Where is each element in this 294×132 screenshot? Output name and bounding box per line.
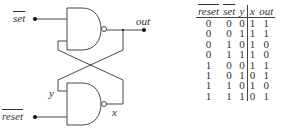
table-row: 1 1 1 0 1: [196, 91, 275, 101]
x-label: x: [112, 107, 117, 118]
header-out: out: [257, 5, 275, 18]
reset-terminal-dot: [33, 115, 37, 119]
reset-label: reset: [2, 111, 23, 122]
cell-reset: 1: [196, 91, 221, 101]
header-set: set: [221, 5, 237, 18]
header-x: x: [247, 5, 257, 18]
out-terminal-dot: [142, 28, 146, 32]
cell-y: 1: [237, 91, 247, 101]
cell-x: 0: [247, 91, 257, 101]
truth-table: reset set y x out 0 0 0 1 1 0 0 1 1 1 0 …: [196, 5, 275, 101]
cell-set: 1: [221, 91, 237, 101]
junction-dot: [122, 29, 124, 31]
header-reset: reset: [196, 5, 221, 18]
set-label: set: [13, 13, 25, 24]
out-label: out: [136, 16, 150, 27]
cell-out: 1: [257, 91, 275, 101]
top-nand-bubble: [102, 27, 107, 32]
bottom-nand-bubble: [102, 102, 107, 107]
bottom-nand-gate: [67, 83, 101, 125]
y-label: y: [49, 88, 54, 99]
top-nand-gate: [67, 8, 101, 50]
header-y: y: [237, 5, 247, 18]
set-terminal-dot: [33, 17, 37, 21]
y-feedback-wire: [58, 30, 123, 91]
truth-table-header: reset set y x out: [196, 5, 275, 18]
